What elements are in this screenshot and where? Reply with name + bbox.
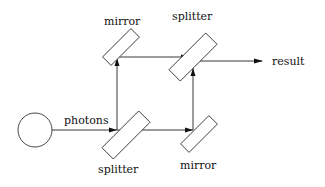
interferometer-diagram: photons result splitter mirror splitter … [0, 0, 325, 187]
label-mirror-bottom: mirror [180, 159, 217, 172]
beam-splitter-input [102, 111, 150, 159]
arrowhead-photons [109, 128, 117, 133]
photon-source-circle [18, 113, 52, 147]
mirror-bottom [181, 116, 218, 153]
label-splitter-output: splitter [172, 10, 213, 23]
label-mirror-top: mirror [104, 15, 141, 28]
arrowhead-result [254, 59, 263, 64]
arrowhead-right-bottom [185, 128, 193, 133]
label-splitter-input: splitter [98, 163, 139, 176]
label-photons: photons [64, 114, 109, 127]
label-result: result [272, 55, 305, 68]
mirror-top [103, 29, 140, 66]
